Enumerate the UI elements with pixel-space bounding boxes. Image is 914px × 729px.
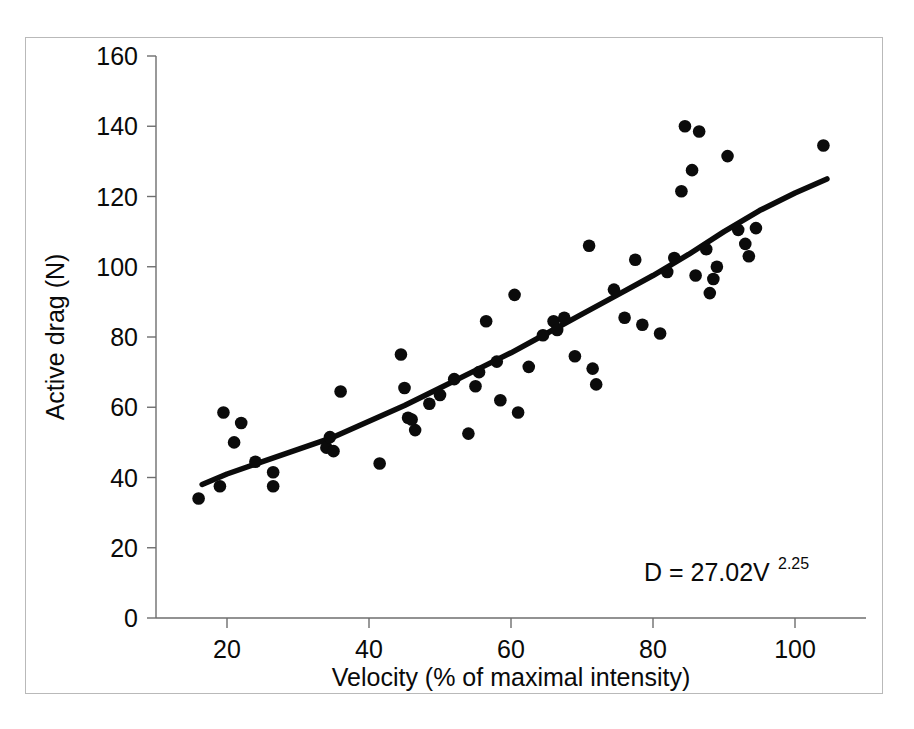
data-point [743, 250, 756, 263]
data-point [707, 273, 720, 286]
data-point [480, 315, 493, 328]
data-point [423, 397, 436, 410]
data-point [373, 457, 386, 470]
axes [156, 56, 866, 618]
data-point [214, 480, 227, 493]
trend-line-group [202, 179, 827, 485]
data-point [494, 394, 507, 407]
data-point [693, 125, 706, 138]
regression-equation-annotation: D = 27.02V 2.25 [644, 555, 809, 586]
data-point [817, 139, 830, 152]
data-point [636, 318, 649, 331]
data-point [508, 289, 521, 302]
scatter-plot: 020406080100120140160 20406080100 Active… [26, 38, 882, 693]
y-tick-label: 40 [110, 464, 138, 492]
data-point [551, 324, 564, 337]
data-point [473, 366, 486, 379]
data-point [700, 243, 713, 256]
data-point [324, 431, 337, 444]
data-point [512, 406, 525, 419]
y-axis-title: Active drag (N) [41, 254, 69, 421]
data-point [395, 348, 408, 361]
data-point [398, 382, 411, 395]
data-points-group [192, 120, 829, 505]
x-axis-ticks: 20406080100 [213, 618, 816, 663]
data-point [267, 466, 280, 479]
data-point [228, 436, 241, 449]
data-point [721, 150, 734, 163]
x-axis-title: Velocity (% of maximal intensity) [332, 663, 690, 691]
data-point [334, 385, 347, 398]
data-point [668, 252, 681, 265]
data-point [679, 120, 692, 133]
data-point [675, 185, 688, 198]
data-point [590, 378, 603, 391]
data-point [462, 427, 475, 440]
figure-frame: 020406080100120140160 20406080100 Active… [25, 37, 883, 694]
y-tick-label: 140 [96, 112, 138, 140]
y-tick-label: 20 [110, 534, 138, 562]
data-point [608, 283, 621, 296]
x-tick-label: 80 [639, 635, 667, 663]
data-point [537, 329, 550, 342]
x-tick-label: 40 [355, 635, 383, 663]
y-tick-label: 120 [96, 183, 138, 211]
y-axis-ticks: 020406080100120140160 [96, 42, 156, 632]
x-tick-label: 60 [497, 635, 525, 663]
y-tick-label: 100 [96, 253, 138, 281]
data-point [586, 362, 599, 375]
data-point [249, 455, 262, 468]
data-point [491, 355, 504, 368]
data-point [327, 445, 340, 458]
data-point [434, 389, 447, 402]
data-point [686, 164, 699, 177]
regression-equation-base: D = 27.02V [644, 558, 770, 586]
data-point [267, 480, 280, 493]
data-point [689, 269, 702, 282]
y-tick-label: 0 [124, 604, 138, 632]
data-point [522, 361, 535, 374]
data-point [732, 224, 745, 237]
data-point [235, 417, 248, 430]
data-point [704, 287, 717, 300]
y-tick-label: 160 [96, 42, 138, 70]
data-point [654, 327, 667, 340]
data-point [558, 311, 571, 324]
data-point [217, 406, 230, 419]
y-tick-label: 60 [110, 393, 138, 421]
data-point [661, 266, 674, 279]
data-point [739, 238, 752, 251]
fitted-power-curve [202, 179, 827, 485]
data-point [583, 239, 596, 252]
data-point [569, 350, 582, 363]
x-tick-label: 100 [774, 635, 816, 663]
regression-equation-exponent: 2.25 [778, 555, 809, 572]
data-point [750, 222, 763, 235]
data-point [711, 260, 724, 273]
data-point [469, 380, 482, 393]
data-point [405, 413, 418, 426]
data-point [448, 373, 461, 386]
x-tick-label: 20 [213, 635, 241, 663]
data-point [192, 492, 205, 505]
data-point [618, 311, 631, 324]
data-point [629, 253, 642, 266]
y-tick-label: 80 [110, 323, 138, 351]
